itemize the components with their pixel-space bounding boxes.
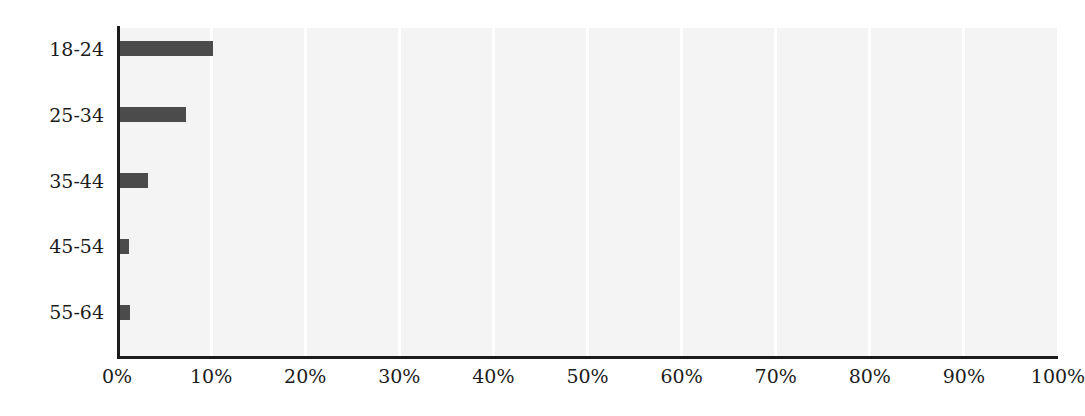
x-axis-tick-label: 40%: [472, 365, 514, 387]
gridline: [398, 28, 401, 357]
gridline: [210, 28, 213, 357]
bar: [117, 41, 213, 56]
x-axis-tick-label: 30%: [378, 365, 420, 387]
y-axis-tick-label: 45-54: [0, 235, 104, 257]
x-axis-tick-label: 100%: [1031, 365, 1085, 387]
y-axis-tick-label: 18-24: [0, 38, 104, 60]
x-axis-tick-label: 90%: [943, 365, 985, 387]
x-axis-tick-label: 10%: [190, 365, 232, 387]
plot-area: [117, 28, 1058, 357]
x-axis-tick-label: 20%: [284, 365, 326, 387]
gridline: [962, 28, 965, 357]
gridline: [492, 28, 495, 357]
x-axis-tick-label: 0%: [102, 365, 132, 387]
y-axis-tick-label: 35-44: [0, 170, 104, 192]
x-axis-tick-label: 70%: [755, 365, 797, 387]
bar: [117, 107, 186, 122]
y-axis-tick-label: 25-34: [0, 104, 104, 126]
bar: [117, 173, 148, 188]
y-axis-line: [117, 26, 120, 359]
gridline: [680, 28, 683, 357]
gridline: [868, 28, 871, 357]
y-axis-tick-label: 55-64: [0, 301, 104, 323]
x-axis-line: [117, 356, 1058, 359]
gridline: [774, 28, 777, 357]
x-axis-tick-label: 60%: [660, 365, 702, 387]
gridline: [304, 28, 307, 357]
x-axis-tick-label: 50%: [566, 365, 608, 387]
gridline: [586, 28, 589, 357]
gridline: [1057, 28, 1060, 357]
x-axis-tick-label: 80%: [849, 365, 891, 387]
